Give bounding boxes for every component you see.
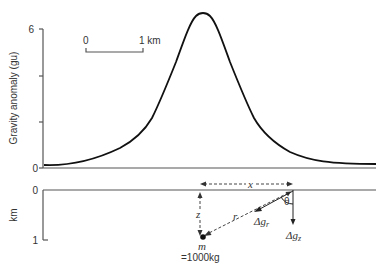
- lower-y-label: km: [8, 208, 19, 221]
- mass-symbol: m: [198, 240, 206, 252]
- gravity-anomaly-diagram: 6 0 Gravity anomaly (gu) 0 1 km 0 1 km x…: [0, 0, 384, 265]
- anomaly-curve: [44, 13, 376, 165]
- theta-label: θ: [284, 196, 290, 207]
- scale-bar-end: 1 km: [139, 35, 161, 46]
- upper-y-label: Gravity anomaly (gu): [8, 52, 19, 145]
- lower-tick-1: 1: [32, 235, 38, 246]
- delta-g-r-label: Δgr: [253, 215, 270, 229]
- upper-tick-0: 0: [32, 163, 38, 174]
- delta-g-z-arrow: [291, 190, 296, 225]
- r-distance-arrow: [204, 192, 291, 237]
- mass-value: =1000kg: [181, 252, 220, 263]
- delta-g-z-label: Δgz: [285, 229, 302, 243]
- x-label: x: [247, 178, 253, 190]
- z-label: z: [195, 208, 201, 220]
- lower-y-axis: [43, 190, 48, 240]
- r-label: r: [233, 210, 238, 222]
- lower-tick-0: 0: [32, 185, 38, 196]
- scale-bar-start: 0: [83, 35, 89, 46]
- scale-bar: 0 1 km: [83, 35, 161, 52]
- x-distance-arrow: [200, 182, 293, 187]
- upper-tick-6: 6: [28, 24, 34, 35]
- upper-y-axis: [39, 29, 43, 168]
- point-mass: [200, 234, 206, 240]
